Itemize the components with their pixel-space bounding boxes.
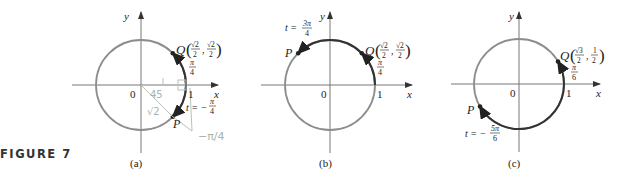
panel-a: 45 √2 −π/4 y x 0 1 Q ( √2 2 , √2 2 ) π 4… — [72, 10, 225, 170]
t-den: 6 — [493, 134, 497, 143]
p-label: P — [284, 46, 293, 60]
x-axis-label: x — [406, 88, 412, 100]
y-axis-label: y — [319, 10, 325, 22]
q-y-num: 1 — [593, 46, 597, 55]
panel-c: y x 0 1 Q ( √3 2 , 1 2 ) π 6 t = − 5π 6 … — [451, 10, 605, 170]
arc-label-num: π — [190, 58, 195, 67]
paren-close: ) — [216, 40, 222, 59]
x-axis-label: x — [595, 87, 601, 99]
t-num: 5π — [491, 124, 500, 133]
paren-close: ) — [405, 41, 411, 60]
point-q — [171, 51, 176, 56]
q-y-den: 2 — [209, 50, 213, 59]
comma: , — [586, 50, 589, 61]
arc-label-den: 4 — [378, 68, 382, 77]
q-y-num: √2 — [207, 40, 215, 49]
t-label: t = − — [465, 128, 486, 139]
arc-label-den: 6 — [572, 73, 576, 82]
q-x-den: 2 — [382, 51, 386, 60]
annotation-sqrt2: √2 — [147, 106, 160, 117]
comma: , — [202, 44, 205, 55]
annotation-45: 45 — [150, 89, 163, 100]
q-label: Q — [560, 48, 570, 63]
origin-label: 0 — [130, 88, 136, 100]
y-axis-label: y — [123, 10, 129, 22]
q-label: Q — [365, 43, 375, 58]
one-label: 1 — [188, 88, 194, 100]
y-axis-label: y — [508, 10, 514, 22]
paren-close: ) — [599, 46, 605, 65]
arc-negative-5pi-6 — [480, 84, 564, 129]
point-q — [360, 51, 365, 56]
annotation-neg-pi-4: −π/4 — [198, 130, 225, 143]
arc-pi-6 — [558, 62, 564, 85]
q-y-num: √2 — [396, 41, 404, 50]
panel-caption: (a) — [130, 157, 143, 170]
origin-label: 0 — [321, 88, 327, 100]
q-x-num: √2 — [191, 40, 199, 49]
one-label: 1 — [566, 87, 572, 99]
t-num: 3π — [302, 19, 312, 28]
q-x-num: √2 — [380, 41, 388, 50]
unit-circle-figure: 45 √2 −π/4 y x 0 1 Q ( √2 2 , √2 2 ) π 4… — [0, 0, 622, 177]
p-label: P — [466, 103, 475, 117]
point-p — [478, 104, 483, 109]
arc-label-den: 4 — [190, 68, 194, 77]
one-label: 1 — [377, 88, 383, 100]
origin-label: 0 — [510, 87, 516, 99]
p-label: P — [172, 117, 181, 131]
panel-caption: (b) — [319, 157, 332, 170]
t-label: t = − — [186, 102, 207, 113]
q-x-num: √3 — [575, 46, 583, 55]
t-den: 4 — [305, 29, 309, 38]
t-den: 4 — [210, 107, 214, 116]
comma: , — [391, 45, 394, 56]
q-y-den: 2 — [592, 56, 596, 65]
q-y-den: 2 — [398, 51, 402, 60]
q-label: Q — [176, 42, 186, 57]
panel-caption: (c) — [508, 157, 521, 170]
q-x-den: 2 — [577, 56, 581, 65]
panel-b: y x 0 1 Q ( √2 2 , √2 2 ) π 4 t = 3π 4 P… — [261, 10, 412, 170]
t-label: t = — [285, 22, 297, 33]
point-p — [296, 51, 301, 56]
